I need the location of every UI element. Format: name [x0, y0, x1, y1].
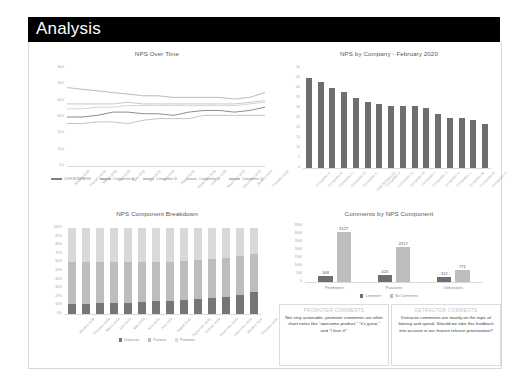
axis-tick-label: 15 — [290, 136, 300, 139]
axis-tick-label: 5 — [290, 156, 300, 159]
legend-label: Detractor — [124, 338, 139, 342]
chart-title: NPS Over Time — [31, 50, 283, 57]
axis-tick-label: 35 — [290, 96, 300, 99]
legend-label: Competitor D — [242, 177, 263, 181]
legend-item: Passive — [148, 338, 166, 342]
promoter-comments-body: Not very actionable, promoter comments a… — [284, 315, 384, 334]
chart-nps-component-breakdown: NPS Component Breakdown 100%90%80%70%60%… — [31, 210, 283, 368]
stacked-segment — [166, 262, 174, 302]
axis-tick-label: 1000 — [291, 264, 302, 267]
stacked-segment — [236, 295, 244, 314]
stacked-segment — [194, 299, 202, 314]
detractor-comments-body: Detractor comments are mainly on the top… — [396, 315, 496, 334]
stacked-segment — [166, 301, 174, 314]
stacked-segment — [124, 303, 132, 314]
chart-legend: DetractorPassivePromoter — [31, 338, 283, 342]
axis-tick-label: 2000 — [291, 248, 302, 251]
slide-header-bar: Analysis — [28, 17, 500, 42]
axis-line — [67, 166, 265, 167]
legend-item: OUR BUSINESS — [51, 177, 91, 181]
stacked-segment — [138, 228, 146, 262]
axis-tick-label: 30.0 — [50, 115, 64, 118]
bar-value-label: 2217 — [388, 241, 418, 246]
stacked-bar — [110, 228, 118, 314]
stacked-segment — [96, 228, 104, 262]
bar — [470, 120, 476, 168]
stacked-segment — [236, 228, 244, 256]
legend-swatch — [390, 294, 393, 297]
chart-plot-area: 60.050.040.030.020.010.00.0January 2019F… — [67, 68, 265, 166]
line-series-group — [67, 68, 265, 166]
axis-tick-label: Passives — [370, 285, 418, 290]
legend-label: OUR BUSINESS — [64, 177, 91, 181]
chart-plot-area: 50454035302520151050Competitor ACompetit… — [303, 68, 491, 168]
stacked-bar — [180, 228, 188, 314]
axis-tick-label: 20.0 — [50, 131, 64, 134]
bar — [400, 106, 406, 168]
axis-tick-label: 40 — [290, 86, 300, 89]
legend-item: Promoter — [175, 338, 195, 342]
axis-tick-label: 30% — [49, 286, 62, 289]
axis-tick-label: 10% — [49, 303, 62, 306]
stacked-segment — [250, 292, 258, 314]
legend-swatch — [186, 178, 197, 179]
stacked-bar — [82, 228, 90, 314]
axis-tick-label: 0 — [290, 166, 300, 169]
stacked-segment — [208, 259, 216, 298]
legend-label: Competitor B — [156, 177, 177, 181]
line-series — [67, 102, 265, 109]
axis-tick-label: 10.0 — [50, 148, 64, 151]
axis-tick-label: 30 — [290, 106, 300, 109]
legend-swatch — [51, 178, 62, 179]
legend-label: Passive — [153, 338, 166, 342]
legend-label: No Comments — [395, 294, 418, 298]
stacked-segment — [96, 303, 104, 314]
legend-label: Promoter — [180, 338, 195, 342]
axis-tick-label: 0 — [291, 280, 302, 283]
axis-tick-label: May 2019 — [132, 317, 145, 330]
line-series — [67, 101, 265, 104]
axis-tick-label: 100% — [49, 226, 62, 229]
axis-line — [65, 314, 261, 315]
chart-legend: CommentNo Comments — [277, 294, 501, 298]
axis-tick-label: 3500 — [291, 224, 302, 227]
legend-swatch — [148, 338, 151, 341]
chart-plot-area: 100%90%80%70%60%50%40%30%20%10%0%January… — [65, 228, 261, 314]
detractor-comments-heading: DETRACTOR COMMENTS — [396, 308, 496, 313]
bar — [447, 118, 453, 168]
stacked-segment — [82, 228, 90, 262]
bar — [365, 102, 371, 168]
axis-tick-label: 20% — [49, 295, 62, 298]
stacked-bar — [96, 228, 104, 314]
bar — [396, 247, 410, 282]
bar — [337, 232, 351, 282]
line-series — [67, 115, 265, 123]
bar — [482, 124, 488, 168]
axis-tick-label: 20 — [290, 126, 300, 129]
legend-label: Competitor A — [113, 177, 134, 181]
promoter-comments-heading: PROMOTER COMMENTS — [284, 308, 384, 313]
legend-item: Detractor — [119, 338, 139, 342]
bar — [388, 106, 394, 168]
detractor-comments-box: DETRACTOR COMMENTS Detractor comments ar… — [391, 304, 501, 366]
bar — [423, 108, 429, 168]
stacked-segment — [222, 228, 230, 258]
axis-tick-label: 25 — [290, 116, 300, 119]
chart-comments-by-nps-component: Comments by NPS Component 35003000250020… — [277, 210, 501, 302]
bar — [455, 270, 469, 282]
stacked-segment — [208, 298, 216, 314]
bar — [459, 118, 465, 168]
bar-value-label: 771 — [447, 264, 477, 269]
stacked-segment — [138, 302, 146, 314]
bar — [341, 92, 347, 168]
bar — [353, 98, 359, 168]
stacked-bar — [124, 228, 132, 314]
slide-body: NPS Over Time 60.050.040.030.020.010.00.… — [28, 42, 502, 369]
legend-swatch — [175, 338, 178, 341]
stacked-segment — [96, 262, 104, 303]
stacked-segment — [68, 262, 76, 303]
axis-tick-label: 40.0 — [50, 99, 64, 102]
stacked-bar — [250, 228, 258, 314]
stacked-bar — [152, 228, 160, 314]
axis-tick-label: 45 — [290, 76, 300, 79]
